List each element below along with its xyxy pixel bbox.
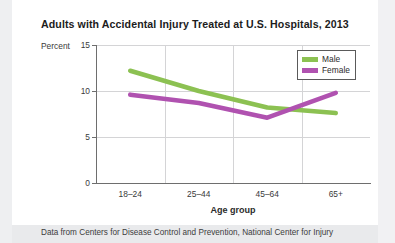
series-line-female [130,93,336,118]
x-axis-tick-label: 45–64 [233,189,301,199]
x-axis-tick-label: 25–44 [165,189,233,199]
legend-label-male: Male [322,54,340,65]
chart-card: Adults with Accidental Injury Treated at… [12,0,378,225]
screenshot-page: Adults with Accidental Injury Treated at… [0,0,395,243]
source-footnote: Data from Centers for Disease Control an… [41,228,333,237]
legend-swatch-female [302,68,318,73]
legend-label-female: Female [322,65,350,76]
legend-item-male: Male [302,54,350,65]
legend-item-female: Female [302,65,350,76]
page-left-margin [0,0,12,243]
legend-swatch-male [302,57,318,62]
x-axis-tick-label: 65+ [302,189,370,199]
x-axis-label: Age group [96,205,370,215]
chart-legend: Male Female [297,50,356,80]
x-axis-tick-label: 18–24 [96,189,164,199]
